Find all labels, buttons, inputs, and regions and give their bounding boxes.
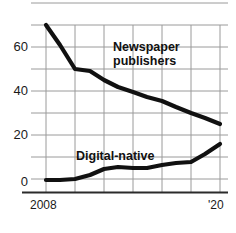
line-chart: 60 40 20 0 2008 '20 Newspaper publishers… xyxy=(0,0,236,233)
annotation-newspaper-line1: Newspaper xyxy=(113,40,180,54)
annotation-digital-label: Digital-native xyxy=(76,149,155,163)
annotation-newspaper-line2: publishers xyxy=(113,54,176,68)
y-tick-label-40: 40 xyxy=(14,83,28,98)
x-axis-tick-labels: 2008 '20 xyxy=(30,198,224,212)
y-axis-tick-labels: 60 40 20 0 xyxy=(14,39,28,189)
y-tick-label-60: 60 xyxy=(14,39,28,54)
y-tick-label-20: 20 xyxy=(14,127,28,142)
x-tick-label-2020: '20 xyxy=(208,198,224,212)
chart-container: 60 40 20 0 2008 '20 Newspaper publishers… xyxy=(0,0,236,233)
x-tick-label-2008: 2008 xyxy=(30,198,57,212)
y-tick-label-0: 0 xyxy=(21,174,28,189)
annotation-newspaper-publishers: Newspaper publishers xyxy=(113,40,180,68)
annotation-digital-native: Digital-native xyxy=(76,149,155,163)
